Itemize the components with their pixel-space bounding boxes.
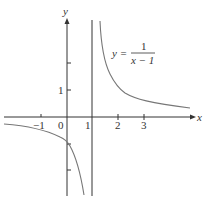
function-graph: x y −1 0 1 2 3 1 y = 1 x − 1 (0, 0, 203, 199)
svg-text:1: 1 (141, 40, 147, 52)
y-tick-label: 1 (58, 84, 64, 96)
y-axis-label: y (62, 5, 68, 17)
x-tick-label: 3 (141, 119, 147, 131)
x-tick-label: 0 (58, 119, 64, 131)
equation-label: y = 1 x − 1 (111, 40, 155, 66)
svg-text:x − 1: x − 1 (130, 54, 154, 66)
curve-left-branch (4, 124, 84, 195)
x-tick-label: 2 (115, 119, 121, 131)
x-axis-arrow-icon (190, 115, 196, 120)
x-tick-label: 1 (85, 119, 91, 131)
x-axis-label: x (196, 111, 202, 123)
y-axis-arrow-icon (65, 18, 70, 24)
svg-text:y =: y = (111, 47, 127, 59)
